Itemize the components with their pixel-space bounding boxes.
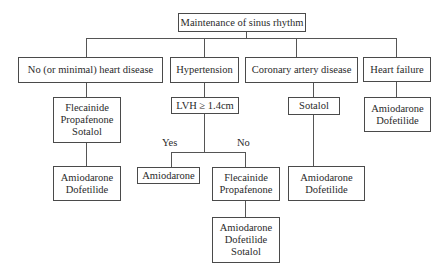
drug-item: Amiodarone bbox=[61, 172, 114, 184]
lvh-no-second-line: Amiodarone Dofetilide Sotalol bbox=[212, 217, 280, 263]
category-label: Hypertension bbox=[176, 64, 233, 76]
drug-item: Dofetilide bbox=[305, 184, 348, 196]
category-label: Heart failure bbox=[370, 64, 423, 76]
connector-no-disease-first bbox=[86, 82, 87, 97]
connector-cad-first bbox=[313, 82, 314, 97]
root-node: Maintenance of sinus rhythm bbox=[178, 13, 306, 32]
lvh-no-first-line: Flecainide Propafenone bbox=[212, 167, 280, 201]
drug-item: Propafenone bbox=[60, 114, 113, 126]
category-heart-failure: Heart failure bbox=[363, 57, 431, 82]
drug-item: Amiodarone bbox=[220, 222, 273, 234]
connector-to-hypertension bbox=[204, 38, 205, 57]
lvh-decision-node: LVH ≥ 1.4cm bbox=[171, 97, 239, 114]
connector-to-no-disease bbox=[86, 38, 87, 57]
connector-category-bar bbox=[86, 38, 397, 39]
drug-item: Flecainide bbox=[224, 172, 268, 184]
lvh-yes-drugs: Amiodarone bbox=[137, 167, 200, 184]
category-label: No (or minimal) heart disease bbox=[28, 64, 153, 76]
root-label: Maintenance of sinus rhythm bbox=[181, 17, 304, 29]
connector-root-down bbox=[246, 31, 247, 38]
connector-no-second bbox=[245, 200, 246, 217]
no-label: No bbox=[237, 137, 250, 149]
connector-to-heart-failure bbox=[396, 38, 397, 57]
drug-item: Sotalol bbox=[72, 126, 102, 138]
drug-item: Dofetilide bbox=[66, 184, 109, 196]
drug-item: Propafenone bbox=[219, 184, 272, 196]
connector-no-disease-second bbox=[86, 142, 87, 166]
connector-yes-no-bar bbox=[171, 152, 245, 153]
decision-label: LVH ≥ 1.4cm bbox=[176, 100, 234, 112]
drug-item: Flecainide bbox=[65, 102, 109, 114]
category-hypertension: Hypertension bbox=[170, 57, 239, 83]
cad-second-line: Amiodarone Dofetilide bbox=[288, 166, 365, 201]
drug-item: Sotalol bbox=[299, 100, 329, 112]
connector-yes-branch bbox=[171, 152, 172, 167]
no-disease-first-line: Flecainide Propafenone Sotalol bbox=[53, 97, 121, 143]
connector-hf-first bbox=[396, 81, 397, 97]
drug-item: Dofetilide bbox=[376, 115, 419, 127]
drug-item: Sotalol bbox=[231, 246, 261, 258]
connector-no-branch bbox=[245, 152, 246, 167]
yes-label: Yes bbox=[162, 137, 177, 149]
connector-hypertension-lvh bbox=[204, 82, 205, 97]
connector-cad-second bbox=[313, 114, 314, 166]
heart-failure-first-line: Amiodarone Dofetilide bbox=[364, 97, 431, 132]
drug-item: Amiodarone bbox=[142, 170, 195, 182]
drug-item: Amiodarone bbox=[300, 172, 353, 184]
category-cad: Coronary artery disease bbox=[245, 57, 358, 83]
no-disease-second-line: Amiodarone Dofetilide bbox=[53, 166, 121, 201]
drug-item: Dofetilide bbox=[225, 234, 268, 246]
category-label: Coronary artery disease bbox=[252, 64, 352, 76]
cad-first-line: Sotalol bbox=[288, 97, 340, 115]
connector-lvh-down bbox=[204, 113, 205, 152]
connector-to-cad bbox=[296, 38, 297, 57]
drug-item: Amiodarone bbox=[371, 103, 424, 115]
category-no-disease: No (or minimal) heart disease bbox=[18, 57, 163, 83]
